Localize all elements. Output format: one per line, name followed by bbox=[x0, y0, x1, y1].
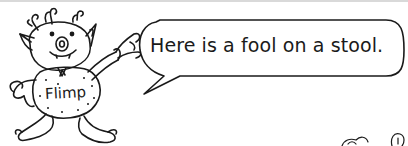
left-leg bbox=[19, 114, 54, 140]
right-leg bbox=[79, 116, 115, 143]
nose bbox=[56, 37, 68, 51]
speech-bubble-text: Here is a fool on a stool. bbox=[150, 34, 400, 56]
bubble-outline bbox=[140, 20, 404, 94]
flimp-character-icon bbox=[0, 0, 150, 146]
right-antenna bbox=[77, 11, 83, 20]
partial-illustration-icon bbox=[340, 118, 408, 146]
worksheet-page: Flimp Here is a fool on a stool. bbox=[0, 0, 408, 146]
right-arm bbox=[88, 52, 116, 72]
character-name-label: Flimp bbox=[45, 83, 87, 103]
